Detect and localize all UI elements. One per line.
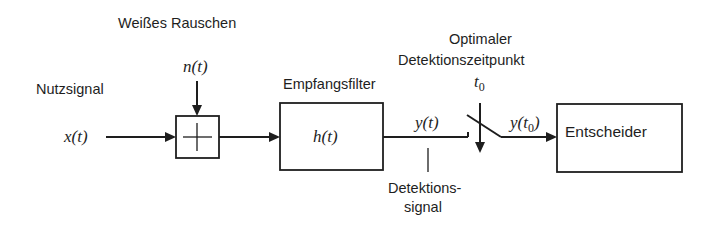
signal-detection-block-diagram: Weißes Rauschen n(t) Nutzsignal Empfangs… bbox=[0, 0, 717, 230]
receive-filter-block: h(t) bbox=[280, 103, 383, 170]
sampler-arrowhead-icon bbox=[475, 142, 485, 153]
detection-signal-line1: Detektions- bbox=[388, 180, 462, 196]
filter-arrowhead-icon bbox=[269, 132, 280, 142]
noise-symbol: n(t) bbox=[183, 57, 208, 76]
output-symbol: y(t) bbox=[413, 113, 439, 132]
input-symbol: x(t) bbox=[63, 127, 88, 146]
noise-title: Weißes Rauschen bbox=[118, 15, 236, 31]
filter-title: Empfangsfilter bbox=[283, 76, 376, 92]
decider-block: Entscheider bbox=[557, 104, 682, 172]
decider-label: Entscheider bbox=[565, 123, 647, 140]
input-arrowhead-icon bbox=[165, 132, 176, 142]
decider-arrowhead-icon bbox=[546, 132, 557, 142]
sampled-symbol: y(t0) bbox=[508, 113, 540, 135]
adder-block bbox=[176, 116, 219, 158]
sample-time-title-line1: Optimaler bbox=[449, 31, 512, 47]
sample-time-title-line2: Detektionszeitpunkt bbox=[398, 52, 525, 68]
sample-time-symbol: t0 bbox=[474, 72, 485, 94]
noise-arrowhead-icon bbox=[192, 105, 202, 116]
filter-symbol: h(t) bbox=[313, 127, 338, 146]
detection-signal-line2: signal bbox=[404, 199, 442, 215]
input-title: Nutzsignal bbox=[36, 81, 104, 97]
sampler-switch-icon bbox=[467, 115, 501, 137]
